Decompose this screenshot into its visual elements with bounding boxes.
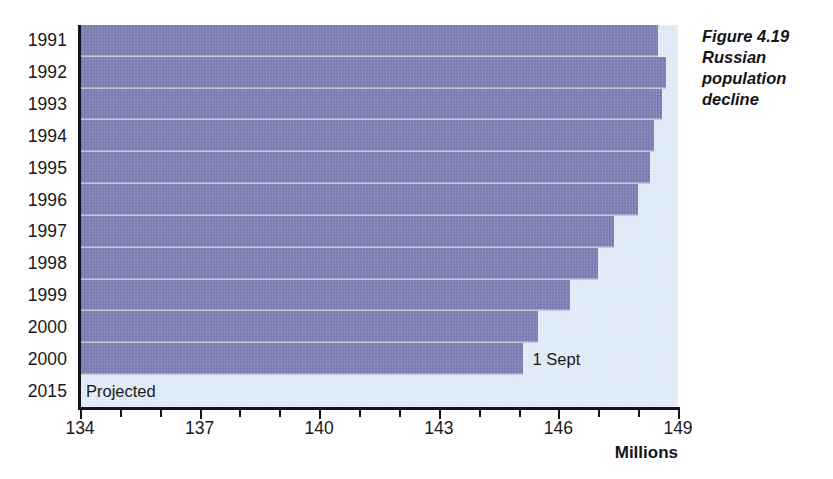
y-axis-label: 1992: [0, 57, 74, 89]
figure-russian-population-decline: 1 SeptProjected 199119921993199419951996…: [0, 0, 833, 479]
bar-row: Projected: [80, 375, 678, 407]
bar: [80, 120, 654, 152]
bar: [80, 25, 658, 57]
bar-row: [80, 184, 678, 216]
bar-series: 1 SeptProjected: [80, 25, 678, 407]
bar: [80, 152, 650, 184]
bar-row: [80, 89, 678, 121]
y-axis-label: 1993: [0, 89, 74, 121]
y-axis-line: [78, 25, 81, 407]
x-tick-minor: [638, 410, 640, 417]
bar-row: [80, 152, 678, 184]
y-axis-label: 1996: [0, 184, 74, 216]
x-axis-label: 146: [544, 418, 573, 439]
bar: [80, 89, 662, 121]
bar: [80, 343, 523, 375]
x-tick-minor: [399, 410, 401, 417]
figure-caption: Figure 4.19 Russian population decline: [702, 26, 827, 110]
caption-line-4: decline: [702, 89, 827, 110]
y-axis-label: 1994: [0, 120, 74, 152]
x-tick-minor: [120, 410, 122, 417]
bar-row: [80, 120, 678, 152]
x-tick-minor: [598, 410, 600, 417]
x-tick-minor: [239, 410, 241, 417]
y-axis-label: 1995: [0, 152, 74, 184]
x-tick-minor: [519, 410, 521, 417]
x-tick-minor: [279, 410, 281, 417]
x-tick-minor: [359, 410, 361, 417]
x-axis-label: 149: [663, 418, 692, 439]
x-axis-title: Millions: [615, 443, 678, 463]
bar: [80, 311, 538, 343]
x-axis-label: 137: [185, 418, 214, 439]
bar-row: 1 Sept: [80, 343, 678, 375]
bar-row: [80, 311, 678, 343]
bar-row: [80, 25, 678, 57]
bar: [80, 248, 598, 280]
projected-annotation: Projected: [86, 382, 156, 401]
caption-line-1: Figure 4.19: [702, 26, 827, 47]
bar: [80, 216, 614, 248]
bar: [80, 57, 666, 89]
x-axis-tick-labels: 134137140143146149: [0, 418, 833, 442]
one-sept-annotation: 1 Sept: [533, 350, 581, 369]
chart-plot-area: 1 SeptProjected: [80, 25, 678, 407]
bar-row: [80, 248, 678, 280]
bar: [80, 280, 570, 312]
x-axis-label: 143: [424, 418, 453, 439]
y-axis-label: 1991: [0, 25, 74, 57]
x-tick-minor: [160, 410, 162, 417]
caption-line-3: population: [702, 68, 827, 89]
bar-row: [80, 280, 678, 312]
y-axis-label: 2015: [0, 375, 74, 407]
x-axis-label: 134: [65, 418, 94, 439]
x-axis-label: 140: [305, 418, 334, 439]
y-axis-tick-labels: 1991199219931994199519961997199819992000…: [0, 25, 74, 407]
x-tick-minor: [479, 410, 481, 417]
y-axis-label: 1997: [0, 216, 74, 248]
bar-row: [80, 57, 678, 89]
y-axis-label: 2000: [0, 311, 74, 343]
caption-line-2: Russian: [702, 47, 827, 68]
y-axis-label: 1999: [0, 280, 74, 312]
bar: [80, 184, 638, 216]
y-axis-label: 1998: [0, 248, 74, 280]
y-axis-label: 2000: [0, 343, 74, 375]
bar-row: [80, 216, 678, 248]
